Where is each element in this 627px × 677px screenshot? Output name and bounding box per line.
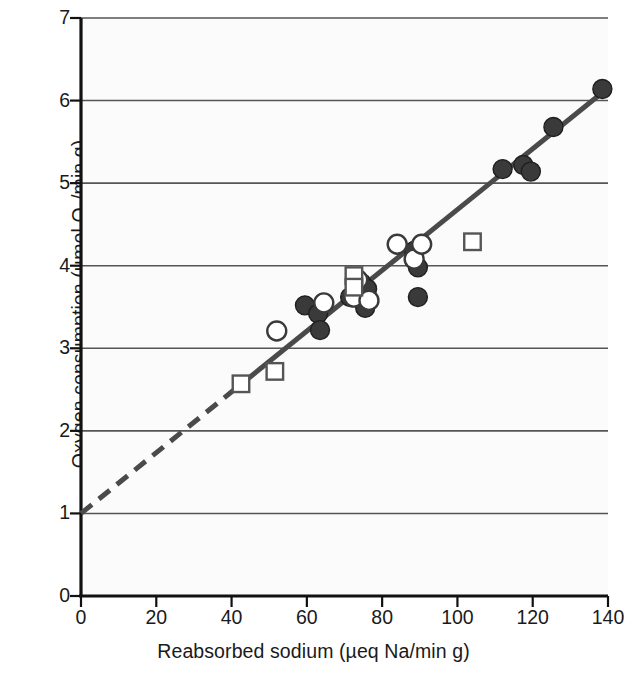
x-tick-label-100: 100 [427, 608, 487, 628]
x-axis-title: Reabsorbed sodium (µeq Na/min g) [0, 640, 627, 663]
point-filled-circle [593, 80, 612, 99]
point-open-circle [388, 235, 407, 254]
point-open-square [464, 234, 481, 251]
x-tick-label-20: 20 [126, 608, 186, 628]
figure-scatter-plot: Oxygen consumption (µmol O2/min g) 01234… [0, 0, 627, 677]
x-tick-label-40: 40 [202, 608, 262, 628]
x-tick-label-120: 120 [503, 608, 563, 628]
x-tick-label-0: 0 [51, 608, 111, 628]
point-open-square [233, 376, 250, 393]
point-filled-circle [521, 162, 540, 181]
x-tick-label-60: 60 [277, 608, 337, 628]
point-open-square [267, 363, 284, 380]
point-open-circle [314, 293, 333, 312]
x-axis-tick-labels: 020406080100120140 [0, 608, 627, 638]
point-filled-circle [311, 321, 330, 340]
plot-background [81, 18, 608, 596]
point-filled-circle [544, 117, 563, 136]
x-tick-label-140: 140 [578, 608, 627, 628]
plot-area [0, 0, 627, 677]
point-filled-circle [493, 160, 512, 179]
point-open-circle [267, 321, 286, 340]
point-filled-circle [408, 288, 427, 307]
point-open-circle [412, 235, 431, 254]
plot-background-rect [81, 18, 608, 596]
point-open-square [346, 279, 363, 296]
x-tick-label-80: 80 [352, 608, 412, 628]
